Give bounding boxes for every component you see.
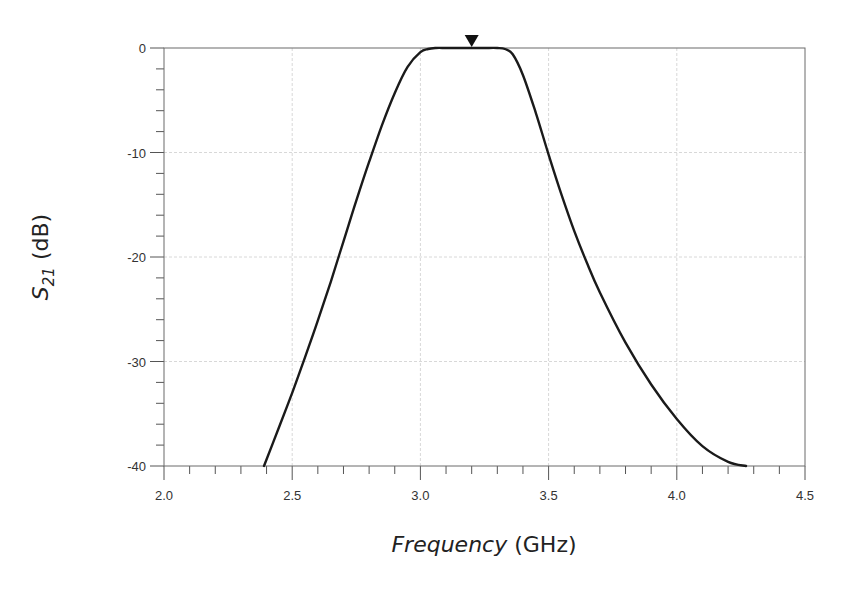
marker-triangle-icon	[465, 35, 479, 47]
y-axis-title-unit: (dB)	[28, 214, 53, 267]
y-axis-title: S21 (dB)	[28, 214, 58, 300]
y-axis: 0-10-20-30-40	[127, 41, 146, 474]
y-tick-label: -30	[127, 355, 146, 370]
x-axis: 2.02.53.03.54.04.5	[155, 488, 814, 503]
y-axis-title-subscript: 21	[40, 267, 58, 286]
y-tick-label: -40	[127, 459, 146, 474]
x-axis-title: Frequency (GHz)	[391, 532, 576, 557]
y-tick-label: 0	[139, 41, 146, 56]
y-tick-label: -20	[127, 250, 146, 265]
chart: 2.02.53.03.54.04.5 0-10-20-30-40 S21 (dB…	[0, 0, 851, 589]
y-axis-title-base: S	[28, 286, 53, 300]
x-tick-label: 3.5	[540, 488, 558, 503]
x-tick-label: 3.0	[411, 488, 429, 503]
x-tick-label: 4.5	[796, 488, 814, 503]
x-axis-title-main: Frequency	[391, 532, 508, 557]
x-tick-label: 2.0	[155, 488, 173, 503]
gridlines	[164, 48, 805, 466]
x-tick-label: 2.5	[283, 488, 301, 503]
x-axis-title-unit: (GHz)	[507, 532, 576, 557]
minor-ticks	[150, 48, 805, 480]
y-tick-label: -10	[127, 146, 146, 161]
x-tick-label: 4.0	[668, 488, 686, 503]
